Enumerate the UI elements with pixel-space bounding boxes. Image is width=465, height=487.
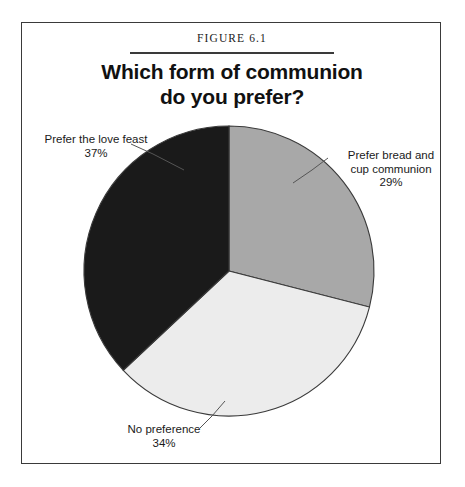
pie-label-no-preference-text: No preference xyxy=(100,423,228,437)
pie-chart xyxy=(22,23,442,465)
pie-label-love-feast-text: Prefer the love feast xyxy=(32,133,160,147)
pie-chart-svg xyxy=(22,23,442,465)
pie-label-bread-cup-percent: 29% xyxy=(332,176,450,190)
pie-label-love-feast-percent: 37% xyxy=(32,147,160,161)
pie-label-love-feast: Prefer the love feast 37% xyxy=(32,133,160,160)
pie-label-no-preference-percent: 34% xyxy=(100,437,228,451)
figure-frame: Figure 6.1 Which form of communion do yo… xyxy=(21,22,441,464)
pie-label-bread-cup-text-1: Prefer bread and xyxy=(332,149,450,163)
pie-label-bread-cup-text-2: cup communion xyxy=(332,163,450,177)
pie-label-bread-cup: Prefer bread and cup communion 29% xyxy=(332,149,450,190)
pie-label-no-preference: No preference 34% xyxy=(100,423,228,450)
